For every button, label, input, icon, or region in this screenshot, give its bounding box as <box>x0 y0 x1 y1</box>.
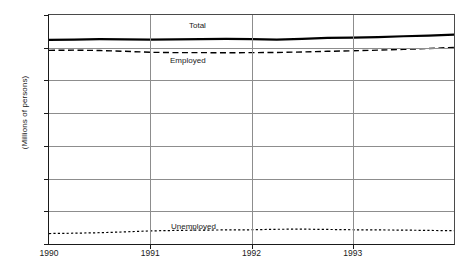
gridline-vertical <box>252 15 253 244</box>
gridline-vertical <box>353 15 354 244</box>
x-axis-tick-label: 1993 <box>328 248 378 258</box>
series-label-unemployed: Unemployed <box>171 222 216 231</box>
unemployment-line-chart: (Millions of persons) 020406080100120140… <box>0 0 460 270</box>
x-axis-tick-mark <box>150 245 151 249</box>
x-axis-tick-label: 1992 <box>227 248 277 258</box>
x-axis-tick-label: 1991 <box>125 248 175 258</box>
x-axis-tick-label: 1990 <box>24 248 74 258</box>
series-label-total: Total <box>189 21 206 30</box>
plot-area <box>48 14 455 245</box>
series-label-employed: Employed <box>170 56 206 65</box>
x-axis-tick-mark <box>353 245 354 249</box>
y-axis-title: (Millions of persons) <box>20 33 29 193</box>
x-axis-tick-mark <box>252 245 253 249</box>
gridline-vertical <box>150 15 151 244</box>
